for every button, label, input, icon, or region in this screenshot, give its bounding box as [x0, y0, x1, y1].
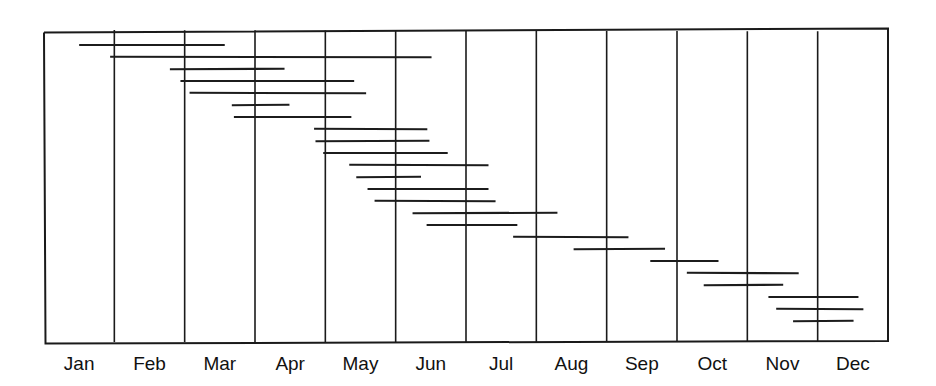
x-axis-label-oct: Oct: [697, 353, 727, 374]
x-axis-label-feb: Feb: [133, 353, 166, 374]
x-axis-label-nov: Nov: [766, 353, 800, 374]
x-axis-label-apr: Apr: [275, 353, 305, 374]
x-axis-label-mar: Mar: [203, 353, 236, 374]
x-axis-label-jun: Jun: [416, 353, 447, 374]
task-bars: mid-Jan – mid-Marearly-Feb – mid-Junlate…: [79, 45, 863, 321]
month-gridlines: [114, 30, 817, 342]
x-axis-label-dec: Dec: [836, 353, 870, 374]
gantt-chart-figure: mid-Jan – mid-Marearly-Feb – mid-Junlate…: [0, 0, 936, 386]
x-axis-label-sep: Sep: [625, 353, 659, 374]
x-axis-label-jul: Jul: [489, 353, 513, 374]
x-axis-month-labels: JanFebMarAprMayJunJulAugSepOctNovDec: [64, 353, 870, 374]
x-axis-label-jan: Jan: [64, 353, 95, 374]
chart-canvas: mid-Jan – mid-Marearly-Feb – mid-Junlate…: [0, 0, 936, 386]
x-axis-label-may: May: [343, 353, 379, 374]
x-axis-label-aug: Aug: [555, 353, 589, 374]
